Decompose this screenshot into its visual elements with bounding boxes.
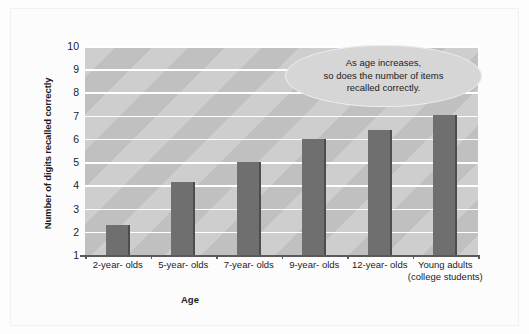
x-axis-tick	[85, 255, 87, 259]
callout-annotation: As age increases, so does the number of …	[285, 45, 482, 107]
bar[interactable]	[433, 115, 457, 255]
gridline	[85, 209, 478, 211]
x-axis-line	[80, 255, 479, 257]
y-tick-label: 4	[57, 179, 79, 191]
y-axis-tick-labels: 10 9 8 7 6 5 4 3 2 1	[55, 46, 79, 255]
bar[interactable]	[302, 139, 326, 255]
bar[interactable]	[106, 225, 130, 255]
chart-figure: Number of digits recalled correctly 10 9…	[0, 0, 529, 334]
x-axis-tick	[216, 255, 218, 259]
y-axis-title: Number of digits recalled correctly	[42, 44, 53, 264]
x-axis-tick	[413, 255, 415, 259]
y-tick-label: 7	[57, 110, 79, 122]
y-tick-label: 5	[57, 156, 79, 168]
y-tick-label: 8	[57, 86, 79, 98]
gridline	[85, 139, 478, 141]
x-axis-tick	[347, 255, 349, 259]
y-tick-label: 10	[57, 40, 79, 52]
x-tick-label: Young adults (college students)	[402, 259, 488, 282]
gridline	[85, 116, 478, 118]
x-axis-tick-labels: 2-year- olds 5-year- olds 7-year- olds 9…	[85, 259, 478, 319]
x-axis-title: Age	[181, 294, 199, 305]
y-tick-label: 3	[57, 203, 79, 215]
y-tick-label: 9	[57, 63, 79, 75]
y-tick-label: 6	[57, 133, 79, 145]
gridline	[85, 185, 478, 187]
x-axis-tick	[282, 255, 284, 259]
bar[interactable]	[237, 162, 261, 255]
x-axis-tick	[478, 255, 480, 259]
gridline	[85, 232, 478, 234]
gridline	[85, 162, 478, 164]
x-axis-tick	[151, 255, 153, 259]
bar[interactable]	[171, 182, 195, 255]
bar[interactable]	[368, 130, 392, 255]
callout-text: As age increases, so does the number of …	[318, 57, 450, 95]
y-tick-label: 2	[57, 226, 79, 238]
